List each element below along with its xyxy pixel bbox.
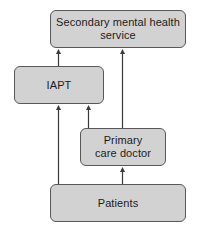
node-secondary-mental-health-service: Secondary mental health service bbox=[50, 10, 186, 48]
node-iapt: IAPT bbox=[14, 66, 104, 104]
flowchart-diagram: Secondary mental health service IAPT Pri… bbox=[0, 0, 203, 229]
node-iapt-label: IAPT bbox=[43, 79, 76, 92]
node-patients-label: Patients bbox=[94, 197, 143, 210]
node-secondary-label: Secondary mental health service bbox=[52, 16, 184, 42]
node-primary-care-doctor: Primary care doctor bbox=[80, 128, 166, 166]
node-primary-label: Primary care doctor bbox=[91, 134, 155, 160]
node-patients: Patients bbox=[50, 184, 186, 222]
